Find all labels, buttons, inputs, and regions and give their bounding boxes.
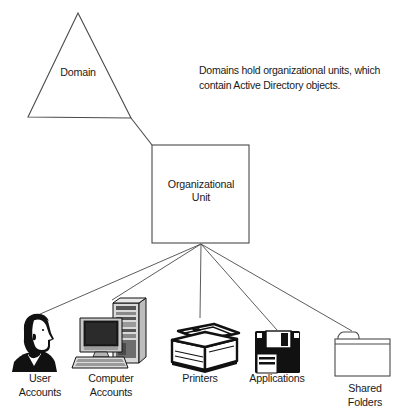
folder-icon <box>335 332 390 376</box>
label-applications: Applications <box>236 372 318 386</box>
connector-to-shared-folders <box>201 244 352 331</box>
connector-fan <box>31 244 352 331</box>
connector-to-printers <box>200 244 201 318</box>
organizational-unit-label: Organizational Unit <box>157 178 244 204</box>
printer-icon <box>172 324 239 373</box>
caption: Domains hold organizational units, which… <box>199 63 391 92</box>
domain-label: Domain <box>35 66 121 79</box>
computer-tower-icon <box>72 298 146 368</box>
diagram-canvas: Domain Organizational Unit Domains hold … <box>0 0 403 413</box>
label-shared-folders: Shared Folders <box>331 382 400 409</box>
user-head-icon <box>12 314 57 372</box>
label-user-accounts: User Accounts <box>5 372 76 399</box>
floppy-disk-icon <box>255 331 300 373</box>
label-computer-accounts: Computer Accounts <box>71 372 151 399</box>
connector-to-computer-accounts <box>112 244 201 300</box>
label-printers: Printers <box>161 372 239 386</box>
connector-to-applications <box>201 244 277 330</box>
connector-domain-to-ou <box>131 118 152 145</box>
diagram-graphics <box>0 0 403 413</box>
